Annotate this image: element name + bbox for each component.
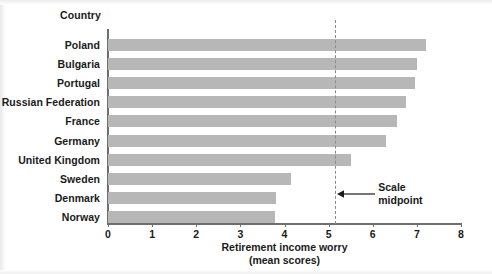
x-axis-tick-label: 3 (237, 228, 243, 240)
bar (108, 115, 397, 127)
x-axis-tick-label: 0 (105, 228, 111, 240)
x-axis-tick (196, 224, 197, 227)
bar-row: France (108, 115, 397, 127)
bar-row: United Kingdom (108, 154, 351, 166)
y-axis-tick-label: Bulgaria (58, 58, 100, 70)
page-edge-bottom (0, 270, 492, 274)
x-axis-tick (329, 224, 330, 227)
x-axis-tick-label: 6 (370, 228, 376, 240)
x-axis-tick (152, 224, 153, 227)
bar (108, 154, 351, 166)
y-axis-title: Country (0, 9, 101, 21)
x-axis-title-sub: (mean scores) (108, 254, 461, 267)
y-axis-tick-label: Poland (65, 39, 100, 51)
x-axis-tick (285, 224, 286, 227)
y-axis-tick-label: Germany (54, 135, 100, 147)
x-axis-tick-label: 2 (193, 228, 199, 240)
x-axis-tick (417, 224, 418, 227)
x-axis-tick-label: 5 (326, 228, 332, 240)
x-axis-tick-label: 7 (414, 228, 420, 240)
bar-row: Russian Federation (108, 96, 406, 108)
bar (108, 58, 417, 70)
bar-row: Sweden (108, 173, 291, 185)
bar (108, 173, 291, 185)
page-edge-left (0, 0, 6, 274)
bar (108, 135, 386, 147)
bar (108, 96, 406, 108)
bar-row: Norway (108, 211, 275, 223)
x-axis-tick (461, 224, 462, 227)
y-axis-tick-label: Portugal (57, 77, 100, 89)
x-axis-tick-label: 4 (282, 228, 288, 240)
bar-row: Poland (108, 39, 426, 51)
bar-row: Denmark (108, 192, 276, 204)
plot-area: PolandBulgariaPortugalRussian Federation… (108, 31, 461, 223)
y-axis-tick-label: Denmark (55, 192, 100, 204)
scale-midpoint-line (335, 20, 336, 224)
x-axis-tick (240, 224, 241, 227)
x-axis-tick-label: 8 (458, 228, 464, 240)
bar-row: Germany (108, 135, 386, 147)
bar-row: Portugal (108, 77, 415, 89)
y-axis-tick-label: Russian Federation (2, 96, 100, 108)
y-axis-tick-label: Sweden (60, 173, 100, 185)
x-axis-tick (108, 224, 109, 227)
y-axis-tick-label: France (65, 115, 100, 127)
bar (108, 192, 276, 204)
y-axis-tick-label: United Kingdom (18, 154, 100, 166)
x-axis-title: Retirement income worry (mean scores) (108, 241, 461, 267)
bar (108, 39, 426, 51)
chart-figure: Country PolandBulgariaPortugalRussian Fe… (0, 0, 492, 274)
x-axis-title-main: Retirement income worry (221, 241, 347, 253)
x-axis-tick-label: 1 (149, 228, 155, 240)
bar-row: Bulgaria (108, 58, 417, 70)
y-axis-tick-label: Norway (62, 211, 100, 223)
bar (108, 211, 275, 223)
x-axis-tick (373, 224, 374, 227)
bar (108, 77, 415, 89)
page-edge-top (0, 0, 492, 5)
